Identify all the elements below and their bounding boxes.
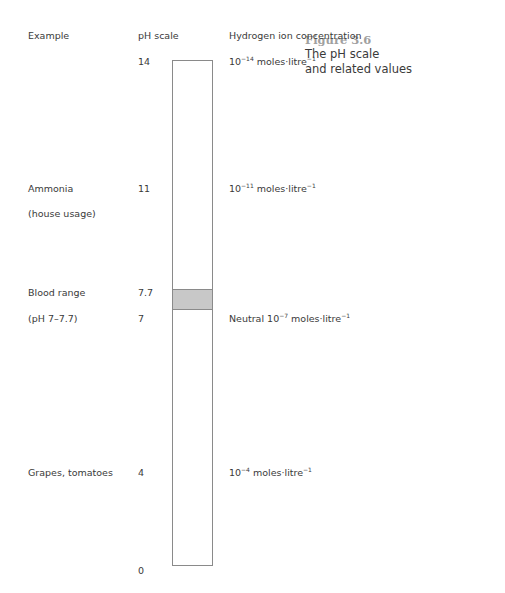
concentration-14: 10−14 moles·litre−1 — [229, 56, 316, 68]
ph-label-0: 0 — [138, 565, 144, 577]
concentration-11: 10−11 moles·litre−1 — [229, 183, 316, 195]
header-concentration: Hydrogen ion concentration — [229, 30, 362, 42]
example-blood-range-note: (pH 7–7.7) — [28, 313, 78, 325]
ph-label-7: 7 — [138, 313, 144, 325]
example-grapes-tomatoes: Grapes, tomatoes — [28, 467, 113, 479]
ph-label-11: 11 — [138, 183, 150, 195]
figure-title: The pH scale and related values — [305, 47, 412, 77]
example-ammonia-note: (house usage) — [28, 208, 96, 220]
ph-label-14: 14 — [138, 56, 150, 68]
ph-scale-bar — [172, 60, 213, 566]
figure-title-line1: The pH scale — [305, 47, 412, 62]
ph-label-7-7: 7.7 — [138, 287, 153, 299]
concentration-4: 10−4 moles·litre−1 — [229, 467, 312, 479]
example-ammonia: Ammonia — [28, 183, 73, 195]
header-ph-scale: pH scale — [138, 30, 179, 42]
header-example: Example — [28, 30, 69, 42]
concentration-7: Neutral 10−7 moles·litre−1 — [229, 313, 350, 325]
blood-range-band — [172, 289, 213, 310]
example-blood-range: Blood range — [28, 287, 85, 299]
ph-label-4: 4 — [138, 467, 144, 479]
figure-title-line2: and related values — [305, 62, 412, 77]
